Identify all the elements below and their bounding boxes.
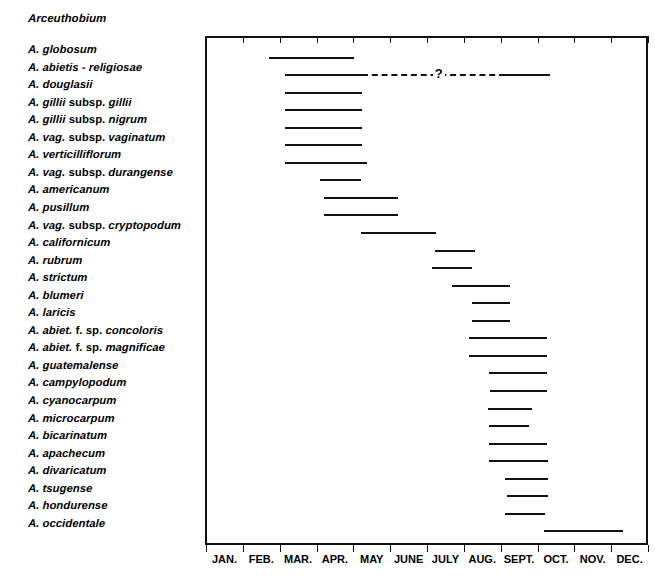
range-bar [544, 530, 623, 532]
range-bar [505, 513, 546, 515]
x-axis-tick [501, 545, 502, 552]
x-axis-month-label: MAY [353, 553, 390, 565]
x-axis-tick [353, 545, 354, 552]
x-axis-tick [317, 545, 318, 552]
x-axis-tick [427, 545, 428, 552]
species-label: A. verticilliflorum [28, 149, 122, 160]
range-bar [490, 390, 547, 392]
genus-heading: Arceuthobium [28, 13, 107, 24]
species-label: A. vag. subsp. durangense [28, 167, 173, 178]
x-axis-tick [280, 545, 281, 552]
x-axis-month-label: DEC. [611, 553, 648, 565]
species-label: A. douglasii [28, 79, 93, 90]
species-label: A. gillii subsp. gillii [28, 97, 132, 108]
species-label: A. occidentale [28, 518, 106, 529]
range-bar [472, 302, 510, 304]
x-axis-month-label: MAR. [280, 553, 317, 565]
range-bar [505, 478, 549, 480]
species-label: A. gillii subsp. nigrum [28, 114, 148, 125]
x-axis-tick-top [611, 36, 612, 43]
species-label: A. microcarpum [28, 413, 115, 424]
species-label: A. vag. subsp. cryptopodum [28, 220, 181, 231]
species-label: A. californicum [28, 237, 111, 248]
species-label: A. guatemalense [28, 360, 119, 371]
x-axis-tick [574, 545, 575, 552]
x-axis-tick-top [501, 36, 502, 43]
species-label: A. apachecum [28, 448, 105, 459]
x-axis-tick-top [464, 36, 465, 43]
species-label: A. campylopodum [28, 377, 127, 388]
range-bar [361, 232, 436, 234]
x-axis-month-label: FEB. [243, 553, 280, 565]
species-label: A. americanum [28, 184, 110, 195]
x-axis-month-label: JUNE [390, 553, 427, 565]
species-label: A. abietis - religiosae [28, 62, 143, 73]
species-label: A. divaricatum [28, 465, 107, 476]
range-bar [452, 285, 510, 287]
x-axis-tick [390, 545, 391, 552]
x-axis-month-label: AUG. [464, 553, 501, 565]
x-axis-tick [464, 545, 465, 552]
x-axis-month-label: JULY [427, 553, 464, 565]
species-label-column: ArceuthobiumA. globosumA. abietis - reli… [0, 0, 205, 545]
species-label: A. abiet. f. sp. concoloris [28, 325, 164, 336]
x-axis-tick-top [317, 36, 318, 43]
x-axis-tick [243, 545, 244, 552]
species-label: A. pusillum [28, 202, 90, 213]
species-label: A. blumeri [28, 290, 84, 301]
range-bar [324, 197, 398, 199]
range-bar [469, 355, 547, 357]
species-label: A. vag. subsp. vaginatum [28, 132, 166, 143]
range-bar [285, 127, 362, 129]
species-label: A. abiet. f. sp. magnificae [28, 342, 165, 353]
x-axis-month-label: APR. [317, 553, 354, 565]
x-axis-tick-top [206, 36, 207, 43]
range-bar [432, 267, 472, 269]
x-axis-tick [611, 545, 612, 552]
x-axis-tick-top [574, 36, 575, 43]
x-axis-tick [206, 545, 207, 552]
species-label: A. hondurense [28, 500, 108, 511]
range-bar [505, 74, 550, 76]
x-axis-tick-top [648, 36, 649, 43]
range-bar [285, 92, 362, 94]
range-bar [488, 408, 532, 410]
x-axis-tick-top [243, 36, 244, 43]
range-bar [285, 109, 362, 111]
x-axis-tick-top [538, 36, 539, 43]
range-bar [469, 337, 547, 339]
x-axis-month-label: JAN. [206, 553, 243, 565]
range-bar [285, 144, 362, 146]
species-label: A. strictum [28, 272, 88, 283]
range-bar [489, 372, 547, 374]
species-label: A. laricis [28, 307, 76, 318]
range-bar [269, 57, 354, 59]
range-bar [472, 320, 510, 322]
x-axis-month-label: NOV. [574, 553, 611, 565]
figure-root: ArceuthobiumA. globosumA. abietis - reli… [0, 0, 655, 577]
x-axis-tick [648, 545, 649, 552]
x-axis-tick-top [280, 36, 281, 43]
range-bar [285, 74, 362, 76]
range-bar [320, 179, 361, 181]
x-axis-tick-top [390, 36, 391, 43]
x-axis-tick-top [427, 36, 428, 43]
range-bar [435, 250, 475, 252]
x-axis-tick [538, 545, 539, 552]
range-bar [507, 495, 548, 497]
range-bar [489, 460, 548, 462]
species-label: A. globosum [28, 44, 97, 55]
species-label: A. cyanocarpum [28, 395, 117, 406]
range-bar [285, 162, 367, 164]
x-axis-month-label: SEPT. [501, 553, 538, 565]
range-bar [324, 214, 398, 216]
species-label: A. rubrum [28, 255, 83, 266]
range-bar [489, 443, 547, 445]
species-label: A. bicarinatum [28, 430, 107, 441]
x-axis-month-label: OCT. [538, 553, 575, 565]
chart-bars-layer: ? [207, 38, 646, 543]
chart-plot-area: ? [205, 36, 648, 545]
uncertainty-question-mark: ? [433, 67, 445, 80]
range-bar [489, 425, 529, 427]
x-axis-tick-top [353, 36, 354, 43]
